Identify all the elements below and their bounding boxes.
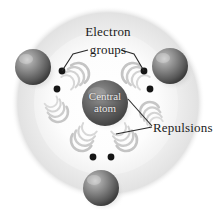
sphere-bottom (83, 170, 119, 206)
dot-mid-right (147, 86, 154, 93)
label-central-atom-line1: Central (82, 90, 128, 102)
dot-bottom-right (108, 154, 115, 161)
label-central-atom: Central atom (82, 90, 128, 114)
label-repulsions: Repulsions (153, 121, 213, 134)
dot-mid-left (54, 86, 61, 93)
dot-bottom-left (90, 154, 97, 161)
label-central-atom-line2: atom (82, 102, 128, 114)
vsepr-figure: Electron groups Repulsions Central atom (0, 0, 216, 210)
label-electron: Electron (0, 25, 216, 38)
label-groups: groups (0, 43, 216, 56)
